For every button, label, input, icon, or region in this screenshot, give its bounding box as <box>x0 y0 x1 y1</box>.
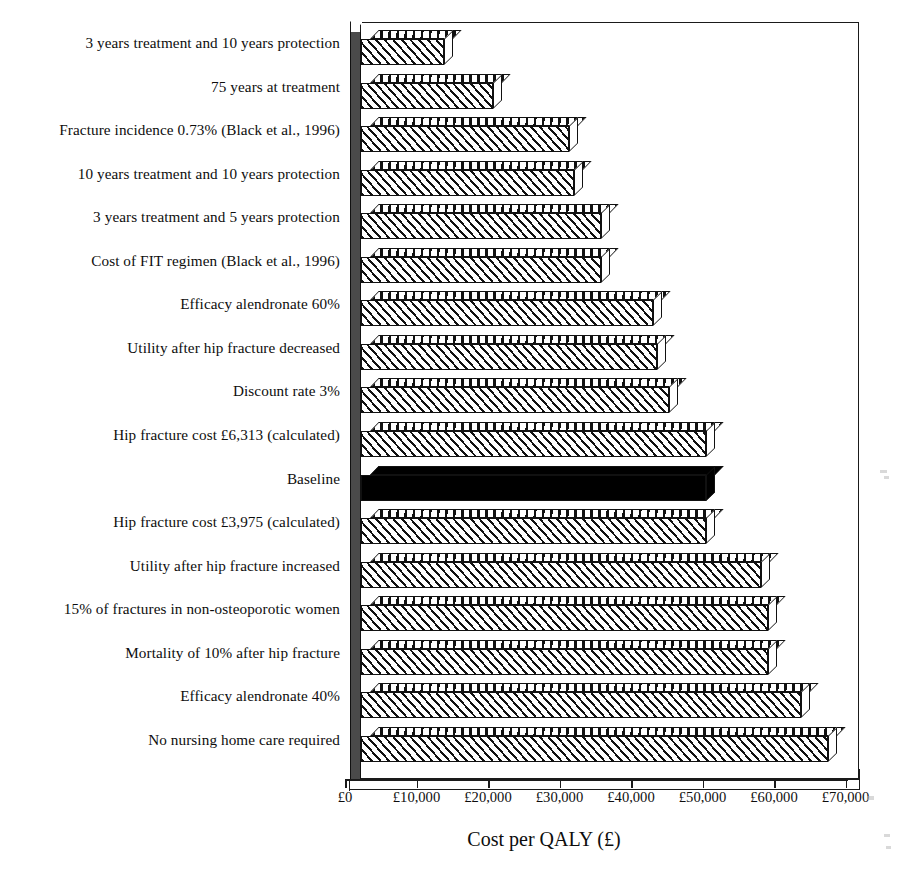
category-label: 3 years treatment and 10 years protectio… <box>0 35 340 50</box>
bar <box>361 335 666 370</box>
bar-top-face <box>370 509 724 518</box>
bar-top-face <box>370 466 724 475</box>
bar <box>361 248 610 283</box>
x-axis-tick-label: £60,000 <box>750 790 797 805</box>
bar-face <box>361 257 601 283</box>
bar-end-face <box>601 204 610 239</box>
category-label: Utility after hip fracture decreased <box>0 340 340 355</box>
bar-face <box>361 562 761 588</box>
bar-top-face <box>370 422 724 431</box>
bar-top-face <box>370 596 786 605</box>
bar <box>361 466 715 501</box>
category-label: Mortality of 10% after hip fracture <box>0 645 340 660</box>
scan-speckle <box>884 834 890 837</box>
category-label: Hip fracture cost £6,313 (calculated) <box>0 427 340 442</box>
bar-face <box>361 605 768 631</box>
x-axis-tick <box>703 779 705 788</box>
category-label: Utility after hip fracture increased <box>0 558 340 573</box>
bar-top-face <box>370 248 619 257</box>
x-axis-tick <box>345 779 347 788</box>
bar <box>361 161 583 196</box>
tornado-diagram: 3 years treatment and 10 years protectio… <box>0 0 898 883</box>
x-axis-tick-label: £70,000 <box>822 790 869 805</box>
bar-face <box>361 126 569 152</box>
bar-face <box>361 213 601 239</box>
bar <box>361 422 715 457</box>
bar <box>361 683 810 718</box>
x-axis-tick <box>774 779 776 788</box>
bar <box>361 727 837 762</box>
category-label: Baseline <box>0 471 340 486</box>
category-label: 75 years at treatment <box>0 79 340 94</box>
category-label: 10 years treatment and 10 years protecti… <box>0 166 340 181</box>
bar <box>361 204 610 239</box>
bar-end-face <box>706 509 715 544</box>
x-axis-tick <box>631 779 633 788</box>
bar-face <box>361 387 669 413</box>
category-label: Efficacy alendronate 60% <box>0 296 340 311</box>
x-axis-title: Cost per QALY (£) <box>0 828 898 851</box>
bar <box>361 74 502 109</box>
x-axis-tick-label: £0 <box>338 790 353 805</box>
category-label: Cost of FIT regimen (Black et al., 1996) <box>0 253 340 268</box>
bar <box>361 117 578 152</box>
bar <box>361 291 662 326</box>
bar-face <box>361 83 493 109</box>
scan-speckle <box>880 470 887 473</box>
category-label: No nursing home care required <box>0 732 340 747</box>
bar <box>361 30 453 65</box>
category-label: Discount rate 3% <box>0 383 340 398</box>
bar-top-face <box>370 291 670 300</box>
x-axis-line <box>345 779 848 781</box>
scan-speckle <box>884 476 889 479</box>
plot-area <box>350 12 860 780</box>
bar-top-face <box>370 727 846 736</box>
scan-speckle <box>886 846 891 849</box>
x-axis-tick <box>560 779 562 788</box>
bar-face <box>361 431 706 457</box>
bar-top-face <box>370 553 778 562</box>
x-axis-tick <box>417 779 419 788</box>
bar-face-baseline <box>361 475 706 501</box>
category-label: 3 years treatment and 5 years protection <box>0 209 340 224</box>
x-axis: £0£10,000£20,000£30,000£40,000£50,000£60… <box>345 779 850 780</box>
bar-face <box>361 39 444 65</box>
bar <box>361 378 678 413</box>
bar-end-face <box>706 422 715 457</box>
bar-top-face <box>370 378 687 387</box>
bar-top-face <box>370 335 675 344</box>
bar-face <box>361 170 574 196</box>
x-axis-tick <box>488 779 490 788</box>
bar-top-face <box>370 74 511 83</box>
category-label: Hip fracture cost £3,975 (calculated) <box>0 514 340 529</box>
bar-top-face <box>370 204 619 213</box>
bar-top-face <box>370 117 587 126</box>
category-label: Fracture incidence 0.73% (Black et al., … <box>0 122 340 137</box>
bar <box>361 553 770 588</box>
bar-top-face <box>370 683 818 692</box>
bar-face <box>361 344 657 370</box>
bar-face <box>361 649 768 675</box>
x-axis-tick-label: £40,000 <box>607 790 654 805</box>
bar-top-face <box>370 640 786 649</box>
bar-end-face <box>669 379 678 414</box>
x-axis-tick-label: £50,000 <box>679 790 726 805</box>
bar-face <box>361 300 653 326</box>
bar-face <box>361 518 706 544</box>
category-label: 15% of fractures in non-osteoporotic wom… <box>0 601 340 616</box>
x-axis-tick-label: £20,000 <box>464 790 511 805</box>
plot-side-wall <box>350 32 361 789</box>
x-axis-tick <box>846 779 848 788</box>
x-axis-tick-label: £30,000 <box>536 790 583 805</box>
bar <box>361 596 777 631</box>
bar-face <box>361 736 828 762</box>
bar-face <box>361 692 801 718</box>
scan-speckle <box>867 796 874 800</box>
bar <box>361 509 715 544</box>
category-label: Efficacy alendronate 40% <box>0 688 340 703</box>
bar <box>361 640 777 675</box>
x-axis-tick-label: £10,000 <box>393 790 440 805</box>
bar-top-face <box>370 161 592 170</box>
